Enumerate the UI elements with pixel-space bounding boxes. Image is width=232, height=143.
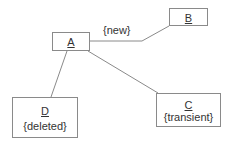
object-d-constraint: {deleted} [13,120,77,133]
link-a-d[interactable] [51,51,67,97]
object-a-name: A [53,36,89,48]
object-c-constraint: {transient} [157,111,220,124]
object-b-name: B [170,12,207,24]
object-b[interactable]: B [169,8,208,26]
link-a-b-label: {new} [103,24,131,36]
object-c-name: C [157,99,220,111]
link-a-c[interactable] [88,51,158,93]
object-d[interactable]: D {deleted} [12,97,78,138]
object-a[interactable]: A [52,32,90,51]
object-d-name: D [13,105,77,117]
object-c[interactable]: C {transient} [156,93,221,127]
